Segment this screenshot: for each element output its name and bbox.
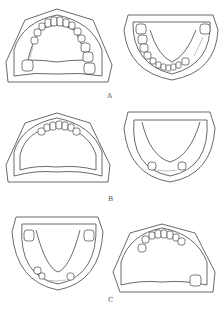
panel-a-mandible (124, 15, 218, 80)
panel-a-maxilla (6, 9, 112, 82)
panel-b-maxilla (6, 113, 110, 182)
panel-b-mandible (124, 112, 215, 182)
panel-label-a: A (107, 92, 112, 100)
panel-label-b: B (108, 195, 113, 203)
panel-label-c: C (108, 296, 113, 304)
panel-c-maxilla (113, 224, 215, 292)
dental-cast-figure (0, 0, 223, 313)
panel-c-mandible (12, 217, 103, 290)
